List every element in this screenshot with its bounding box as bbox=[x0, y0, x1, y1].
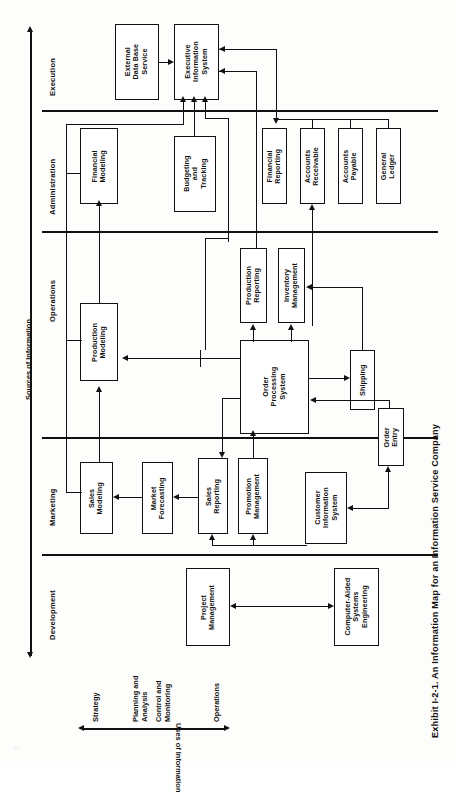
node-label-line2: Reporting bbox=[274, 149, 283, 184]
uses-tick-label: Strategy bbox=[91, 692, 100, 722]
uses-tick-label: Operations bbox=[212, 683, 221, 722]
node-label-line1: Sales bbox=[204, 486, 213, 505]
page-corner-mark: :: bbox=[14, 744, 19, 750]
node-label-line1: Computer-Aided bbox=[343, 578, 352, 636]
node-production-modeling[interactable]: Production Modeling bbox=[80, 303, 118, 381]
structure-left-bus-stub-ops bbox=[66, 340, 82, 341]
node-label-line2: Reporting bbox=[253, 268, 262, 303]
node-budgeting-and-tracking[interactable]: Budgeting and Tracking bbox=[174, 136, 216, 212]
node-label-line2: Modeling bbox=[98, 150, 107, 182]
node-label-line2: Payable bbox=[350, 152, 359, 180]
node-external-data-base-service[interactable]: External Data Base Service bbox=[115, 24, 159, 100]
band-divider-marketing-development bbox=[42, 554, 438, 556]
node-label-line2: Forecasting bbox=[157, 477, 166, 519]
node-accounts-payable[interactable]: Accounts Payable bbox=[338, 128, 363, 204]
uses-tick-control-and-monitoring: Control and Monitoring bbox=[155, 681, 172, 722]
node-label-line2: Management bbox=[252, 474, 261, 519]
node-customer-information-system[interactable]: Customer Information System bbox=[305, 472, 347, 544]
edge-arrow-fm-to-eis bbox=[180, 96, 186, 102]
edge-arrow-orderentry-to-ops bbox=[310, 397, 316, 403]
edge-orderentry-to-cis-riser bbox=[388, 470, 389, 509]
edge-fr-to-eis-drop bbox=[276, 49, 277, 122]
node-label-line1: Project bbox=[199, 594, 208, 619]
node-label-line1: Promotion bbox=[244, 478, 253, 515]
edge-arrow-promo-to-ops bbox=[250, 430, 256, 436]
node-label-line2: Entry bbox=[390, 428, 399, 447]
node-inventory-management[interactable]: Inventory Management bbox=[278, 248, 305, 323]
sources-axis-arrow-bottom bbox=[27, 652, 33, 658]
uses-tick-planning-and-analysis: Planning and Analysis bbox=[132, 676, 149, 722]
node-label-line2: Systems bbox=[351, 592, 360, 622]
edge-pr-to-eis-horz bbox=[205, 118, 229, 119]
node-label-line3: System bbox=[329, 495, 338, 521]
sources-axis-title: Sources of Information bbox=[24, 319, 33, 400]
edge-prodmodel-to-finmodel bbox=[99, 204, 100, 303]
figure-caption: Exhibit I-2-1. An Information Map for an… bbox=[430, 424, 440, 738]
node-label-line3: Engineering bbox=[360, 586, 369, 629]
edge-gl-riser bbox=[388, 119, 389, 128]
node-market-forecasting[interactable]: Market Forecasting bbox=[142, 462, 173, 534]
edge-arrow-salesmodel-to-prodmodel bbox=[96, 386, 102, 392]
node-executive-information-system[interactable]: Executive Information System bbox=[174, 24, 219, 100]
edge-fm-to-eis-drop bbox=[66, 124, 67, 174]
node-accounts-receivable[interactable]: Accounts Receivable bbox=[300, 128, 325, 204]
edge-arrow-ops-to-prodrep bbox=[250, 324, 256, 330]
node-sales-reporting[interactable]: Sales Reporting bbox=[198, 458, 228, 534]
node-project-management[interactable]: Project Management bbox=[186, 568, 230, 646]
edge-arrow-ops-to-ar bbox=[309, 204, 315, 210]
uses-axis-line bbox=[84, 728, 224, 730]
edge-orderentry-to-ops-horz bbox=[316, 400, 390, 401]
node-order-entry[interactable]: Order Entry bbox=[378, 408, 404, 466]
edge-ledger-bus bbox=[274, 119, 389, 120]
edge-arrow-shipping-to-inventory bbox=[306, 284, 312, 290]
uses-tick-operations: Operations bbox=[213, 683, 222, 722]
edge-ops-to-inventory bbox=[291, 330, 292, 342]
edge-arrow-prodmodel-to-finmodel bbox=[96, 200, 102, 206]
edge-arrow-case-to-pm bbox=[230, 603, 236, 609]
node-promotion-management[interactable]: Promotion Management bbox=[238, 458, 268, 534]
structure-left-bus bbox=[66, 173, 67, 493]
edge-shipping-to-inventory-horz bbox=[311, 287, 363, 288]
edge-arrow-bt-to-eis bbox=[191, 96, 197, 102]
node-label-line2: Management bbox=[207, 585, 216, 630]
structure-left-bus-stub-mkt bbox=[66, 492, 82, 493]
edge-arrow-cis-to-salesrep bbox=[209, 534, 215, 540]
edge-bt-to-eis-vert bbox=[194, 100, 195, 136]
node-label-line2: Information bbox=[321, 488, 330, 529]
node-label-line1: General bbox=[379, 152, 388, 179]
node-label-line2: Management bbox=[291, 263, 300, 308]
edge-arrow-ops-to-inventory bbox=[288, 324, 294, 330]
node-general-ledger[interactable]: General Ledger bbox=[376, 128, 401, 204]
node-order-processing-system[interactable]: Order Processing System bbox=[240, 340, 309, 434]
edge-salesrep-to-marketfc bbox=[179, 497, 198, 498]
band-label-development: Development bbox=[48, 590, 57, 640]
node-label-line2: Receivable bbox=[312, 147, 321, 186]
edge-arrow-ops-to-prodmodel bbox=[122, 355, 128, 361]
edge-pm-to-case bbox=[236, 606, 328, 607]
edge-ops-to-ar bbox=[312, 208, 313, 326]
edge-cis-to-salesrep-riser bbox=[212, 540, 213, 546]
edge-arrow-salesrep-to-marketfc bbox=[173, 494, 179, 500]
edge-ar-riser bbox=[312, 119, 313, 128]
node-computer-aided-systems-engineering[interactable]: Computer-Aided Systems Engineering bbox=[334, 568, 379, 646]
edge-arrow-orderentry-to-cis bbox=[347, 505, 353, 511]
edge-arrow-prod-rep-to-eis bbox=[219, 68, 225, 74]
node-sales-modeling[interactable]: Sales Modeling bbox=[80, 462, 113, 534]
edge-arrow-pm-to-case bbox=[328, 603, 334, 609]
edge-ops-to-prodmodel-horz bbox=[128, 358, 240, 359]
edge-marketfc-to-salesmodel bbox=[119, 497, 142, 498]
edge-arrow-marketfc-to-salesmodel bbox=[113, 494, 119, 500]
node-financial-reporting[interactable]: Financial Reporting bbox=[262, 128, 287, 204]
node-financial-modeling[interactable]: Financial Modeling bbox=[80, 128, 118, 204]
node-production-reporting[interactable]: Production Reporting bbox=[240, 248, 267, 323]
node-label-line1: Accounts bbox=[341, 149, 350, 183]
edge-ops-to-prodrep bbox=[253, 330, 254, 342]
node-label-line1: Customer bbox=[312, 491, 321, 525]
edge-ops-to-salesrep-drop bbox=[222, 398, 223, 456]
band-divider-execution-administration bbox=[42, 110, 438, 112]
uses-axis-arrow-left bbox=[78, 725, 84, 731]
node-label-line2: Modeling bbox=[98, 326, 107, 358]
edge-ops-to-salesrep-vert bbox=[205, 238, 206, 350]
edge-ops-to-shipping-horz bbox=[309, 378, 344, 379]
node-label-line3: System bbox=[278, 374, 287, 400]
